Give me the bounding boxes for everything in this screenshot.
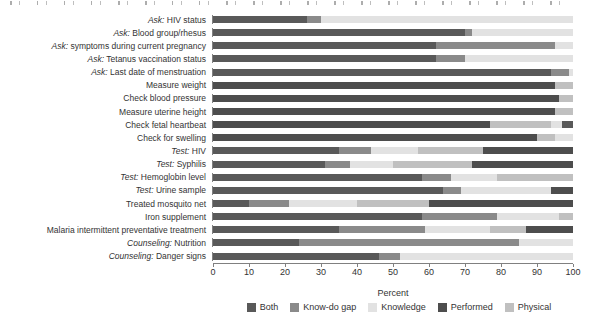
category-label-prefix: Counseling: bbox=[127, 238, 172, 248]
x-axis-tick-label: 0 bbox=[210, 267, 215, 277]
bar-segment-performed bbox=[213, 121, 490, 128]
bar-segment-both bbox=[213, 187, 443, 194]
category-label-text: HIV status bbox=[164, 15, 206, 25]
category-label: Check fetal heartbeat bbox=[0, 120, 213, 130]
bar-track bbox=[213, 134, 573, 141]
bar-segment-know-do-gap bbox=[339, 226, 425, 233]
bar-row-check-for-swelling: Check for swelling bbox=[0, 131, 596, 144]
x-axis-title: Percent bbox=[213, 288, 573, 298]
bar-segment-both bbox=[213, 253, 379, 260]
y-axis-tick bbox=[212, 68, 213, 77]
bar-segment-knowledge bbox=[425, 226, 490, 233]
y-axis-tick bbox=[212, 225, 213, 234]
bar-segment-both bbox=[213, 200, 249, 207]
legend-item-knowledge: Knowledge bbox=[368, 302, 426, 312]
bar-segment-know-do-gap bbox=[379, 253, 401, 260]
bar-row-test-hemoglobin-level: Test: Hemoglobin level bbox=[0, 171, 596, 184]
bar-track bbox=[213, 174, 573, 181]
category-label: Ask: Last date of menstruation bbox=[0, 67, 213, 77]
legend-item-both: Both bbox=[247, 302, 279, 312]
bar-segment-knowledge bbox=[461, 187, 551, 194]
legend-label: Know-do gap bbox=[303, 302, 356, 312]
category-label-prefix: Ask: bbox=[88, 54, 105, 64]
bar-row-counseling-danger-signs: Counseling: Danger signs bbox=[0, 250, 596, 263]
x-axis-tick-label: 40 bbox=[352, 267, 362, 277]
bar-segment-knowledge bbox=[569, 69, 573, 76]
bar-row-counseling-nutrition: Counseling: Nutrition bbox=[0, 236, 596, 249]
category-label: Measure weight bbox=[0, 80, 213, 90]
legend-label: Knowledge bbox=[381, 302, 426, 312]
x-axis-tick-label: 90 bbox=[532, 267, 542, 277]
bar-row-ask-symptoms-during-current-pregnancy: Ask: symptoms during current pregnancy bbox=[0, 39, 596, 52]
category-label: Ask: Blood group/rhesus bbox=[0, 28, 213, 38]
category-label: Ask: symptoms during current pregnancy bbox=[0, 41, 213, 51]
y-axis-tick bbox=[212, 160, 213, 169]
category-label-text: Malaria intermittent preventative treatm… bbox=[47, 225, 206, 235]
bar-segment-both bbox=[213, 16, 307, 23]
y-axis-tick bbox=[212, 186, 213, 195]
category-label-text: Danger signs bbox=[154, 251, 206, 261]
x-axis-tick-label: 10 bbox=[244, 267, 254, 277]
bar-row-ask-blood-group-rhesus: Ask: Blood group/rhesus bbox=[0, 26, 596, 39]
bar-track bbox=[213, 108, 573, 115]
category-label-prefix: Test: bbox=[171, 146, 189, 156]
bar-track bbox=[213, 82, 573, 89]
bar-segment-knowledge bbox=[289, 200, 357, 207]
y-axis-tick bbox=[212, 120, 213, 129]
bar-segment-both bbox=[213, 29, 465, 36]
bar-track bbox=[213, 239, 573, 246]
category-label-prefix: Test: bbox=[135, 185, 153, 195]
bar-segment-know-do-gap bbox=[249, 200, 289, 207]
bar-segment-knowledge bbox=[465, 55, 573, 62]
category-label: Ask: Tetanus vaccination status bbox=[0, 54, 213, 64]
bar-segment-knowledge bbox=[371, 147, 418, 154]
y-axis-tick bbox=[212, 252, 213, 261]
bar-segment-know-do-gap bbox=[299, 239, 519, 246]
y-axis-tick bbox=[212, 146, 213, 155]
bar-segment-physical bbox=[555, 108, 573, 115]
bar-segment-know-do-gap bbox=[307, 16, 321, 23]
bar-segment-physical bbox=[490, 121, 551, 128]
bar-track bbox=[213, 55, 573, 62]
bar-segment-both bbox=[213, 42, 436, 49]
category-label-text: Hemoglobin level bbox=[138, 172, 206, 182]
bar-segment-know-do-gap bbox=[443, 187, 461, 194]
bar-segment-physical bbox=[537, 134, 555, 141]
bar-track bbox=[213, 42, 573, 49]
bar-row-test-syphilis: Test: Syphilis bbox=[0, 158, 596, 171]
bar-segment-physical bbox=[490, 226, 526, 233]
stacked-bar-chart-figure: Ask: HIV statusAsk: Blood group/rhesusAs… bbox=[0, 0, 596, 326]
bar-segment-knowledge bbox=[350, 161, 393, 168]
bar-segment-physical bbox=[559, 213, 573, 220]
bar-segment-performed bbox=[213, 82, 555, 89]
plot-area: Ask: HIV statusAsk: Blood group/rhesusAs… bbox=[0, 13, 596, 263]
bar-track bbox=[213, 16, 573, 23]
category-label-prefix: Ask: bbox=[52, 41, 69, 51]
bar-row-measure-uterine-height: Measure uterine height bbox=[0, 105, 596, 118]
bar-row-test-urine-sample: Test: Urine sample bbox=[0, 184, 596, 197]
legend-item-physical: Physical bbox=[505, 302, 552, 312]
legend-label: Performed bbox=[451, 302, 493, 312]
bar-segment-knowledge bbox=[555, 134, 573, 141]
bar-segment-performed bbox=[429, 200, 573, 207]
bar-row-treated-mosquito-net: Treated mosquito net bbox=[0, 197, 596, 210]
bar-segment-knowledge bbox=[472, 29, 573, 36]
category-label-text: Measure uterine height bbox=[119, 107, 206, 117]
bar-track bbox=[213, 69, 573, 76]
x-axis-tick-label: 50 bbox=[388, 267, 398, 277]
category-label-text: Iron supplement bbox=[145, 212, 206, 222]
category-label-text: Tetanus vaccination status bbox=[104, 54, 206, 64]
bar-track bbox=[213, 29, 573, 36]
bar-track bbox=[213, 121, 573, 128]
bar-segment-physical bbox=[418, 147, 483, 154]
legend-item-performed: Performed bbox=[438, 302, 493, 312]
bar-segment-knowledge bbox=[555, 42, 573, 49]
bar-segment-performed bbox=[213, 134, 537, 141]
bar-segment-physical bbox=[357, 200, 429, 207]
bar-segment-knowledge bbox=[497, 213, 558, 220]
bar-segment-knowledge bbox=[519, 239, 573, 246]
bar-segment-knowledge bbox=[400, 253, 573, 260]
category-label: Test: Urine sample bbox=[0, 185, 213, 195]
category-label-prefix: Ask: bbox=[113, 28, 130, 38]
bar-segment-both bbox=[213, 213, 422, 220]
